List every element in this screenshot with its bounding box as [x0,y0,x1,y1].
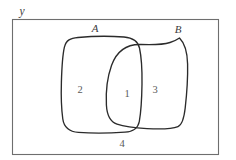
region-label-2: 2 [77,84,82,95]
set-b-outline [106,38,187,129]
region-label-1: 1 [124,88,129,99]
region-label-4: 4 [119,138,125,149]
set-a-outline [61,36,142,133]
region-label-3: 3 [152,84,157,95]
set-a-label: A [91,22,99,34]
universal-set-label: у [18,5,25,18]
diagram-canvas: у A B 2 1 3 4 [0,0,236,160]
venn-diagram-svg: у A B 2 1 3 4 [0,0,236,160]
set-b-label: B [175,23,182,35]
